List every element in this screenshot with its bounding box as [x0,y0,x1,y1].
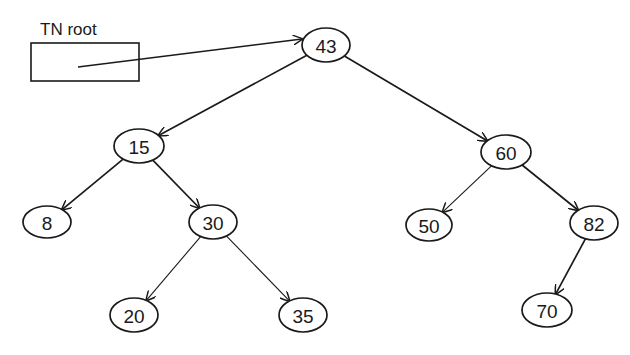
node-label: 35 [292,307,313,326]
edge-30-20 [146,237,200,301]
node-label: 30 [202,214,223,233]
edge-43-60 [344,56,487,141]
edge-15-30 [153,160,200,208]
node-label: 15 [128,138,149,157]
node-label: 20 [123,307,144,326]
edge-15-8 [62,159,123,209]
root-pointer-label: TN root [40,21,97,38]
node-label: 60 [495,144,516,163]
edge-30-35 [227,236,290,301]
node-label: 82 [583,215,604,234]
node-label: 70 [536,302,557,321]
edge-82-70 [556,239,586,294]
edge-43-15 [159,55,307,135]
node-label: 8 [42,214,53,233]
edge-60-82 [522,165,578,210]
node-label: 43 [315,37,336,56]
edge-60-50 [443,166,492,212]
node-label: 50 [418,217,439,236]
